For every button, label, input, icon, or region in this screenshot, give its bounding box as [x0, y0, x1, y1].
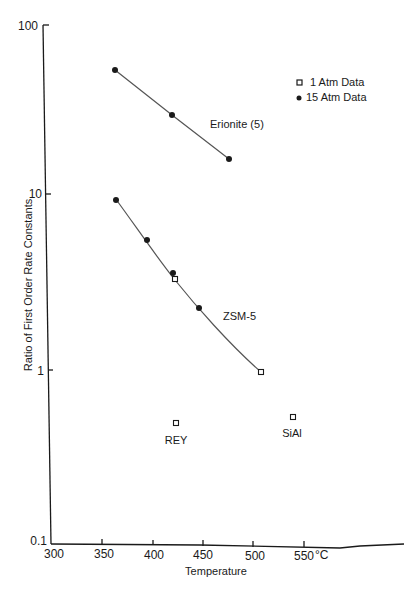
series-zsm5: ZSM-5 — [113, 197, 264, 375]
erionite-label: Erionite (5) — [210, 118, 264, 130]
x-tick-350: 350 — [94, 547, 114, 561]
zsm5-label: ZSM-5 — [223, 310, 256, 322]
x-unit-label: °C — [315, 548, 329, 562]
legend-1atm-label: 1 Atm Data — [310, 76, 365, 88]
series-rey: REY — [165, 421, 188, 447]
legend-filled-circle-icon — [297, 96, 302, 101]
x-axis-title: Temperature — [185, 565, 247, 577]
sial-label: SiAl — [282, 427, 302, 439]
chart-canvas: 100 10 1 0.1 300 350 400 450 500 550 °C … — [0, 0, 420, 591]
x-tick-450: 450 — [193, 548, 213, 562]
series-sial: SiAl — [282, 415, 302, 440]
legend-15atm-label: 15 Atm Data — [306, 91, 367, 103]
y-tick-0.1: 0.1 — [30, 534, 47, 548]
x-tick-500: 500 — [245, 549, 265, 563]
rey-label: REY — [165, 434, 188, 446]
legend-open-square-icon — [297, 80, 302, 85]
x-tick-400: 400 — [144, 548, 164, 562]
series-erionite: Erionite (5) — [112, 67, 264, 162]
x-tick-300: 300 — [44, 547, 64, 561]
y-tick-100: 100 — [18, 19, 38, 33]
legend: 1 Atm Data 15 Atm Data — [297, 76, 368, 103]
y-tick-1: 1 — [37, 364, 44, 378]
y-axis-title: Ratio of First Order Rate Constants — [22, 198, 34, 371]
x-tick-550: 550 — [294, 549, 314, 563]
y-axis — [43, 25, 53, 544]
